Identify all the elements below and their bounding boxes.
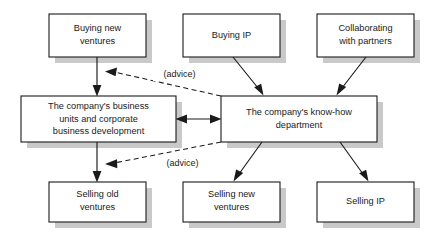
- node-selling-old-ventures[interactable]: Selling old ventures: [49, 182, 146, 222]
- node-label-selling-new-line1: Selling new: [208, 189, 255, 199]
- node-selling-new-ventures[interactable]: Selling new ventures: [183, 182, 280, 222]
- node-label-know-how-line2: department: [276, 120, 323, 130]
- advice-upper-label: (advice): [163, 69, 195, 79]
- node-label-buying-ip-line1: Buying IP: [212, 30, 251, 40]
- advice-lower-label: (advice): [166, 158, 198, 168]
- diagram-canvas: Buying new ventures Buying IP Collaborat…: [0, 0, 437, 242]
- advice-lower-arrowhead: [105, 159, 117, 168]
- node-buying-ip[interactable]: Buying IP: [183, 14, 280, 57]
- arrowhead-to-business-units-top: [93, 85, 102, 97]
- node-label-selling-ip-line1: Selling IP: [346, 196, 385, 206]
- advice-upper-arrowhead: [105, 67, 117, 76]
- node-label-business-units-line1: The company's business: [48, 101, 149, 111]
- node-business-units[interactable]: The company's business units and corpora…: [21, 96, 176, 142]
- node-label-buying-new-ventures-line1: Buying new: [74, 23, 122, 33]
- node-label-selling-old-line1: Selling old: [76, 189, 118, 199]
- node-know-how-department[interactable]: The company's know-how department: [221, 96, 377, 142]
- node-label-collaborating-line2: with partners: [338, 36, 392, 46]
- node-label-selling-new-line2: ventures: [214, 202, 250, 212]
- arrowhead-bidirectional-right: [210, 115, 222, 124]
- node-box-know-how-department[interactable]: [221, 96, 377, 142]
- node-label-collaborating-line1: Collaborating: [338, 23, 392, 33]
- node-label-selling-old-line2: ventures: [80, 202, 116, 212]
- node-buying-new-ventures[interactable]: Buying new ventures: [49, 14, 146, 57]
- node-label-business-units-line2: units and corporate: [59, 114, 138, 124]
- node-selling-ip[interactable]: Selling IP: [317, 182, 414, 222]
- arrowhead-to-selling-new: [234, 170, 244, 182]
- arrowhead-to-selling-old: [93, 171, 102, 183]
- node-label-business-units-line3: business development: [53, 126, 145, 136]
- node-label-buying-new-ventures-line2: ventures: [80, 36, 116, 46]
- diagram-svg: Buying new ventures Buying IP Collaborat…: [0, 0, 437, 242]
- node-collaborating-with-partners[interactable]: Collaborating with partners: [317, 14, 414, 57]
- node-label-know-how-line1: The company's know-how: [246, 107, 352, 117]
